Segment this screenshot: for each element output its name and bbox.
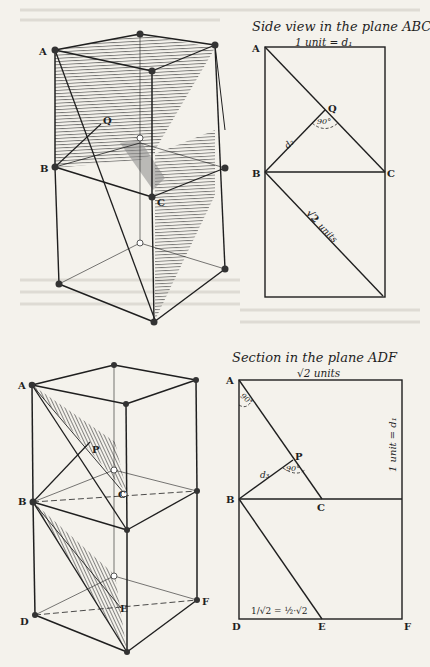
label-q: Q [328,103,337,114]
label-f: F [404,621,411,632]
segment-d2-label: d₂ [282,137,296,151]
label-c: C [317,502,325,513]
diagram-page: A Q B C Side view in the plane ABC 1 uni… [0,0,430,667]
label-e: E [120,603,128,614]
bottom-formula-label: 1/√2 = ½·√2 [251,606,308,616]
top-unit-label: 1 unit = d₁ [295,36,353,48]
label-b: B [252,168,260,179]
side-view-title: Side view in the plane ABC [252,19,430,34]
diagonal-root2-label: √2 [304,208,321,225]
segment-d3-label: d₃ [260,470,270,480]
label-e: E [318,621,326,632]
diagonal-units-label: units [316,221,339,245]
angle-90-top-label: 90° [239,391,255,407]
label-a: A [225,375,234,386]
label-p: P [295,451,303,462]
section-title: Section in the plane ADF [232,350,398,365]
label-d: D [20,616,29,627]
figure-bottom-left-cuboid [32,365,197,652]
label-p: P [92,444,100,455]
side-unit-label: 1 unit = d₁ [387,417,398,472]
figure-top-right-side-view: Side view in the plane ABC 1 unit = d₁ A… [251,19,430,297]
label-q: Q [103,115,112,126]
label-d: D [232,621,241,632]
angle-90-label: 90° [317,117,331,126]
label-c: C [118,489,126,500]
label-b: B [226,494,234,505]
label-c: C [157,197,165,208]
figure-bottom-right-section: Section in the plane ADF √2 units A P B … [225,350,411,632]
label-b: B [40,163,48,174]
label-a: A [17,380,26,391]
label-a: A [38,46,47,57]
label-f: F [202,596,209,607]
label-a: A [251,43,260,54]
label-c: C [387,168,395,179]
angle-90-p-label: 90° [286,464,300,473]
label-b: B [18,496,26,507]
top-root2-units-label: √2 units [297,367,341,379]
